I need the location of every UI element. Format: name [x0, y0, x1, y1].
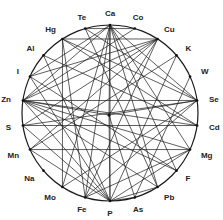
node-cd: [196, 124, 199, 127]
edge-f-i: [30, 76, 177, 170]
label-mn: Mn: [7, 151, 19, 160]
label-co: Co: [133, 13, 144, 22]
label-fe: Fe: [77, 205, 87, 214]
edge-center-se: [109, 100, 197, 115]
edge-ca-i: [30, 25, 110, 76]
node-k: [175, 54, 178, 57]
node-al: [42, 54, 45, 57]
label-p: P: [107, 209, 113, 218]
edge-al-p: [43, 55, 110, 201]
edge-zn-mg: [23, 100, 190, 149]
label-pb: Pb: [164, 193, 174, 202]
node-as: [133, 196, 136, 199]
label-zn: Zn: [1, 95, 11, 104]
label-mo: Mo: [44, 193, 56, 202]
label-hg: Hg: [45, 25, 56, 34]
node-cu: [156, 38, 159, 41]
node-se: [196, 99, 199, 102]
label-as: As: [133, 205, 144, 214]
label-i: I: [17, 67, 19, 76]
label-te: Te: [77, 13, 86, 22]
node-mg: [189, 148, 192, 151]
label-al: Al: [26, 44, 34, 53]
edge-zn-pb: [23, 100, 158, 187]
node-mn: [29, 148, 32, 151]
node-fe: [84, 196, 87, 199]
node-co: [133, 27, 136, 30]
label-s: S: [6, 123, 12, 132]
node-hg: [61, 38, 64, 41]
node-w: [189, 75, 192, 78]
label-ca: Ca: [105, 9, 116, 18]
node-pb: [156, 186, 159, 189]
node-f: [175, 169, 178, 172]
label-se: Se: [209, 95, 219, 104]
label-f: F: [186, 174, 191, 183]
node-p: [109, 200, 112, 203]
label-cd: Cd: [209, 123, 220, 132]
label-na: Na: [24, 174, 35, 183]
node-s: [22, 124, 25, 127]
element-interaction-diagram: CaCoCuKWSeCdMgFPbAsPFeMoNaMnSZnIAlHgTe: [0, 0, 223, 220]
edges-layer: [23, 25, 197, 201]
node-i: [29, 75, 32, 78]
network-svg: CaCoCuKWSeCdMgFPbAsPFeMoNaMnSZnIAlHgTe: [0, 0, 223, 220]
label-cu: Cu: [164, 25, 175, 34]
node-center: [107, 113, 110, 116]
node-na: [42, 169, 45, 172]
edge-mo-se: [62, 100, 197, 187]
label-k: K: [186, 44, 192, 53]
node-mo: [61, 186, 64, 189]
label-w: W: [201, 67, 209, 76]
node-ca: [109, 24, 112, 27]
node-zn: [22, 99, 25, 102]
edge-k-mn: [30, 55, 177, 149]
node-te: [84, 27, 87, 30]
label-mg: Mg: [201, 151, 213, 160]
